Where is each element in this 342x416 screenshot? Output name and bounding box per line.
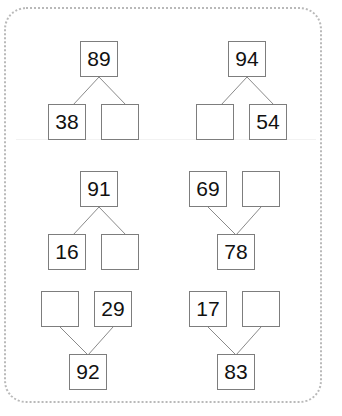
puzzle-5-right-child-box[interactable]: 29 — [94, 291, 132, 327]
number-bond-puzzle-4: 69 78 — [184, 157, 334, 272]
puzzle-6-parent-box[interactable]: 83 — [217, 354, 255, 390]
puzzle-4-left-child-box[interactable]: 69 — [189, 171, 227, 207]
edge-parent-to-left-child — [221, 77, 247, 105]
puzzle-1-parent-box[interactable]: 89 — [80, 41, 118, 77]
puzzle-5-left-child-box[interactable] — [41, 291, 79, 327]
number-bond-puzzle-1: 89 38 — [36, 27, 186, 142]
puzzle-3-left-child-box[interactable]: 16 — [48, 234, 86, 270]
puzzle-3-right-child-box[interactable] — [101, 234, 139, 270]
number-bond-puzzle-6: 17 83 — [184, 277, 334, 392]
edge-parent-to-right-child — [247, 77, 274, 105]
puzzle-2-left-child-box[interactable] — [196, 104, 234, 140]
puzzle-4-parent-box[interactable]: 78 — [217, 234, 255, 270]
number-bond-puzzle-5: 29 92 — [36, 277, 186, 392]
edge-left-child-to-parent — [208, 207, 236, 235]
number-bond-puzzle-2: 94 54 — [184, 27, 334, 142]
puzzle-4-right-child-box[interactable] — [242, 171, 280, 207]
edge-parent-to-left-child — [73, 77, 99, 105]
puzzle-1-right-child-box[interactable] — [101, 104, 139, 140]
number-bond-puzzle-3: 91 16 — [36, 157, 186, 272]
edge-right-child-to-parent — [88, 327, 113, 355]
puzzle-3-parent-box[interactable]: 91 — [80, 171, 118, 207]
edge-parent-to-left-child — [73, 207, 99, 235]
worksheet-panel: 89 38 94 54 91 16 69 78 — [4, 7, 322, 403]
puzzle-2-parent-box[interactable]: 94 — [228, 41, 266, 77]
edge-parent-to-right-child — [99, 207, 126, 235]
puzzle-1-left-child-box[interactable]: 38 — [48, 104, 86, 140]
edge-right-child-to-parent — [236, 207, 261, 235]
edge-right-child-to-parent — [236, 327, 261, 355]
puzzle-5-parent-box[interactable]: 92 — [69, 354, 107, 390]
puzzle-6-left-child-box[interactable]: 17 — [189, 291, 227, 327]
puzzle-6-right-child-box[interactable] — [242, 291, 280, 327]
edge-left-child-to-parent — [208, 327, 236, 355]
puzzle-2-right-child-box[interactable]: 54 — [249, 104, 287, 140]
edge-left-child-to-parent — [60, 327, 88, 355]
edge-parent-to-right-child — [99, 77, 126, 105]
